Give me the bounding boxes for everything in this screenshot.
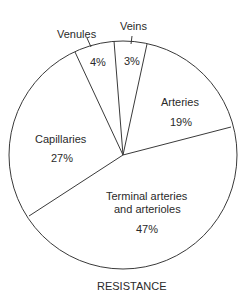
pie-chart <box>0 0 248 300</box>
label-capillaries-pct: 27% <box>51 152 73 165</box>
label-veins: Veins <box>120 20 147 33</box>
label-terminal-line1: Terminal arteries <box>106 190 187 203</box>
label-arteries-pct: 19% <box>170 116 192 129</box>
label-veins-pct: 3% <box>124 55 140 68</box>
label-terminal-pct: 47% <box>136 223 158 236</box>
label-arteries: Arteries <box>161 96 199 109</box>
label-venules-pct: 4% <box>90 56 106 69</box>
label-capillaries: Capillaries <box>35 133 86 146</box>
label-terminal-line2: and arterioles <box>114 203 181 216</box>
chart-title: RESISTANCE <box>97 280 166 293</box>
label-venules: Venules <box>57 28 96 41</box>
